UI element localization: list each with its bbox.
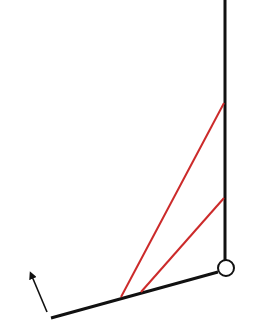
pivot-joint-icon	[218, 260, 234, 276]
lower-red-cable	[141, 198, 224, 292]
upper-red-cable	[121, 103, 224, 297]
angled-beam	[51, 272, 218, 318]
rotation-arrow-icon	[31, 274, 47, 312]
linkage-diagram	[0, 0, 267, 330]
